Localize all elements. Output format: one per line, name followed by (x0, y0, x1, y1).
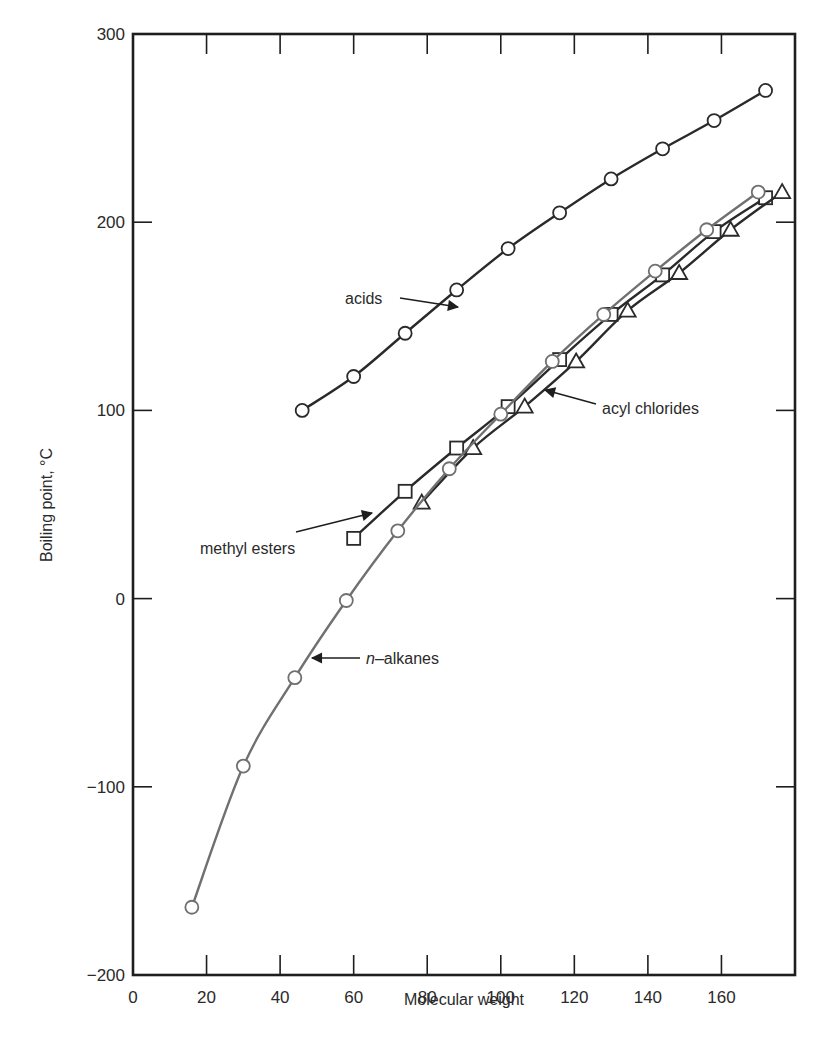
series-acyl-chlorides (414, 184, 790, 509)
circle-marker (656, 142, 669, 155)
x-tick-label: 140 (634, 988, 662, 1007)
y-tick-label: −100 (87, 778, 125, 797)
x-tick-label: 120 (560, 988, 588, 1007)
y-tick-label: 100 (97, 401, 125, 420)
circle-marker (399, 327, 412, 340)
plot-frame (133, 34, 795, 975)
x-axis-title: Molecular weight (404, 991, 525, 1008)
y-tick-label: 0 (116, 590, 125, 609)
annotation-methyl-esters: methyl esters (200, 513, 372, 557)
circle-marker (502, 242, 515, 255)
methyl-esters-line (354, 198, 766, 539)
circle-marker (391, 524, 404, 537)
circle-marker (700, 223, 713, 236)
annotation-n-alkanes: n–alkanes (312, 650, 439, 667)
series-layer (185, 84, 790, 914)
square-marker (399, 485, 412, 498)
circle-marker (296, 404, 309, 417)
x-axis-ticks: 020406080100120140160 (128, 34, 735, 1007)
circle-marker (553, 206, 566, 219)
x-tick-label: 60 (344, 988, 363, 1007)
square-marker (347, 532, 360, 545)
series-methyl-esters (347, 191, 772, 545)
acids-line (302, 90, 765, 410)
annotation-label: acyl chlorides (602, 400, 699, 417)
circle-marker (605, 172, 618, 185)
circle-marker (347, 370, 360, 383)
y-tick-label: 300 (97, 25, 125, 44)
circle-marker (494, 408, 507, 421)
annotation-arrow-icon (400, 298, 458, 307)
circle-marker (340, 594, 353, 607)
plot-area: 020406080100120140160 −200−1000100200300… (87, 25, 795, 1007)
x-tick-label: 20 (197, 988, 216, 1007)
annotations-layer: acidsmethyl estersacyl chloridesn–alkane… (200, 290, 699, 667)
circle-marker (288, 671, 301, 684)
y-tick-label: −200 (87, 966, 125, 985)
circle-marker (708, 114, 721, 127)
circle-marker (443, 462, 456, 475)
circle-marker (450, 283, 463, 296)
circle-marker (185, 901, 198, 914)
annotation-acyl-chlorides: acyl chlorides (545, 390, 699, 417)
circle-marker (649, 265, 662, 278)
boiling-point-chart: 020406080100120140160 −200−1000100200300… (0, 0, 829, 1064)
circle-marker (597, 308, 610, 321)
x-tick-label: 160 (707, 988, 735, 1007)
circle-marker (237, 760, 250, 773)
circle-marker (546, 355, 559, 368)
x-tick-label: 40 (271, 988, 290, 1007)
annotation-label: acids (345, 290, 382, 307)
series-acids (296, 84, 772, 417)
acyl-chlorides-line (422, 192, 782, 503)
x-tick-label: 0 (128, 988, 137, 1007)
annotation-label: n–alkanes (366, 650, 439, 667)
annotation-arrow-icon (296, 513, 372, 532)
annotation-arrow-icon (545, 390, 596, 404)
circle-marker (759, 84, 772, 97)
circle-marker (752, 186, 765, 199)
annotation-acids: acids (345, 290, 458, 307)
y-tick-label: 200 (97, 213, 125, 232)
annotation-label: methyl esters (200, 540, 295, 557)
triangle-marker (774, 184, 790, 198)
square-marker (450, 442, 463, 455)
y-axis-ticks: −200−1000100200300 (87, 25, 795, 985)
y-axis-title: Boiling point, °C (38, 448, 55, 562)
